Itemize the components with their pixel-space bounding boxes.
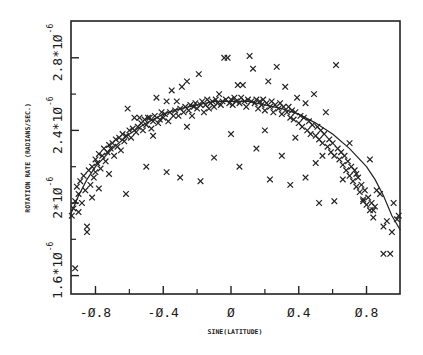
data-point-x-marker: [164, 99, 170, 105]
svg-text:-6: -6: [46, 96, 55, 106]
data-point-x-marker: [123, 191, 129, 197]
data-point-x-marker: [79, 200, 85, 206]
data-point-x-marker: [303, 175, 309, 181]
data-point-x-marker: [186, 108, 192, 114]
data-point-x-marker: [370, 215, 376, 221]
data-point-x-marker: [118, 148, 124, 154]
data-point-x-marker: [77, 178, 83, 184]
data-point-x-marker: [228, 131, 234, 137]
data-point-x-marker: [359, 182, 365, 188]
data-point-x-marker: [332, 198, 338, 204]
data-point-x-marker: [111, 153, 117, 159]
data-point-x-marker: [299, 124, 305, 130]
svg-text:-6: -6: [46, 177, 55, 187]
x-axis-ticks: -Ø.8-Ø.4ØØ.4Ø.8: [80, 286, 378, 320]
data-point-x-marker: [333, 62, 339, 68]
y-tick-label: 1.6*1Ø-6: [46, 241, 65, 299]
data-point-x-marker: [211, 155, 217, 161]
data-point-x-marker: [342, 153, 348, 159]
data-point-x-marker: [125, 106, 131, 112]
data-point-x-marker: [387, 251, 393, 257]
data-point-x-marker: [106, 171, 112, 177]
data-point-x-marker: [247, 53, 253, 59]
data-point-x-marker: [96, 186, 102, 192]
svg-text:-6: -6: [46, 24, 55, 34]
data-point-x-marker: [72, 266, 78, 272]
data-point-x-marker: [381, 251, 387, 257]
svg-text:2.4*1Ø: 2.4*1Ø: [50, 107, 65, 154]
data-point-x-marker: [332, 153, 338, 159]
data-point-x-marker: [98, 166, 104, 172]
x-tick-label: Ø: [227, 305, 235, 320]
data-point-x-marker: [271, 109, 277, 115]
data-point-x-marker: [347, 173, 353, 179]
data-point-x-marker: [237, 164, 243, 170]
y-tick-label: 2.8*1Ø-6: [46, 24, 65, 82]
data-point-x-marker: [198, 178, 204, 184]
data-point-x-marker: [74, 184, 80, 190]
data-points: [69, 53, 402, 271]
y-axis-title: ROTATION RATE (RADIANS/SEC.): [24, 103, 32, 213]
data-point-x-marker: [179, 84, 185, 90]
data-point-x-marker: [308, 131, 314, 137]
data-point-x-marker: [91, 175, 97, 181]
data-point-x-marker: [391, 200, 397, 206]
data-point-x-marker: [357, 189, 363, 195]
data-point-x-marker: [323, 109, 329, 115]
data-point-x-marker: [274, 64, 280, 70]
svg-text:1.6*1Ø: 1.6*1Ø: [50, 252, 65, 299]
data-point-x-marker: [320, 153, 326, 159]
data-point-x-marker: [149, 126, 155, 132]
data-point-x-marker: [128, 135, 134, 141]
data-point-x-marker: [84, 229, 90, 235]
data-point-x-marker: [189, 113, 195, 119]
data-point-x-marker: [196, 71, 202, 77]
data-point-x-marker: [254, 146, 260, 152]
data-point-x-marker: [287, 182, 293, 188]
data-point-x-marker: [365, 195, 371, 201]
data-point-x-marker: [279, 153, 285, 159]
data-point-x-marker: [235, 82, 241, 88]
data-point-x-marker: [267, 177, 273, 183]
x-tick-label: Ø.8: [355, 305, 378, 320]
scatter-chart: -Ø.8-Ø.4ØØ.4Ø.8 1.6*1Ø-62*1Ø-62.4*1Ø-62.…: [0, 0, 423, 355]
data-point-x-marker: [340, 177, 346, 183]
data-point-x-marker: [225, 55, 231, 61]
data-point-x-marker: [347, 140, 353, 146]
data-point-x-marker: [184, 79, 190, 85]
data-point-x-marker: [89, 195, 95, 201]
data-point-x-marker: [103, 158, 109, 164]
data-point-x-marker: [325, 144, 331, 150]
data-point-x-marker: [384, 218, 390, 224]
data-point-x-marker: [321, 131, 327, 137]
x-tick-label: Ø.4: [287, 305, 311, 320]
data-point-x-marker: [243, 104, 249, 110]
data-point-x-marker: [343, 168, 349, 174]
data-point-x-marker: [201, 109, 207, 115]
data-point-x-marker: [294, 95, 300, 101]
data-point-x-marker: [184, 124, 190, 130]
data-point-x-marker: [84, 224, 90, 230]
y-axis-ticks: 1.6*1Ø-62*1Ø-62.4*1Ø-62.8*1Ø-6: [46, 24, 79, 300]
svg-text:-6: -6: [46, 241, 55, 251]
x-tick-label: -Ø.4: [148, 305, 179, 320]
data-point-x-marker: [350, 178, 356, 184]
data-point-x-marker: [171, 113, 177, 119]
data-point-x-marker: [144, 164, 150, 170]
data-point-x-marker: [83, 187, 89, 193]
svg-text:2.8*1Ø: 2.8*1Ø: [50, 34, 65, 81]
data-point-x-marker: [311, 91, 317, 97]
y-tick-label: 2*1Ø-6: [46, 177, 65, 219]
data-point-x-marker: [176, 113, 182, 119]
data-point-x-marker: [262, 128, 268, 134]
data-point-x-marker: [265, 79, 271, 85]
data-point-x-marker: [340, 162, 346, 168]
data-point-x-marker: [262, 108, 268, 114]
data-point-x-marker: [174, 99, 180, 105]
data-point-x-marker: [154, 95, 160, 101]
data-point-x-marker: [81, 173, 87, 179]
y-tick-label: 2.4*1Ø-6: [46, 96, 65, 154]
data-point-x-marker: [164, 169, 170, 175]
data-point-x-marker: [303, 100, 309, 106]
data-point-x-marker: [177, 175, 183, 181]
